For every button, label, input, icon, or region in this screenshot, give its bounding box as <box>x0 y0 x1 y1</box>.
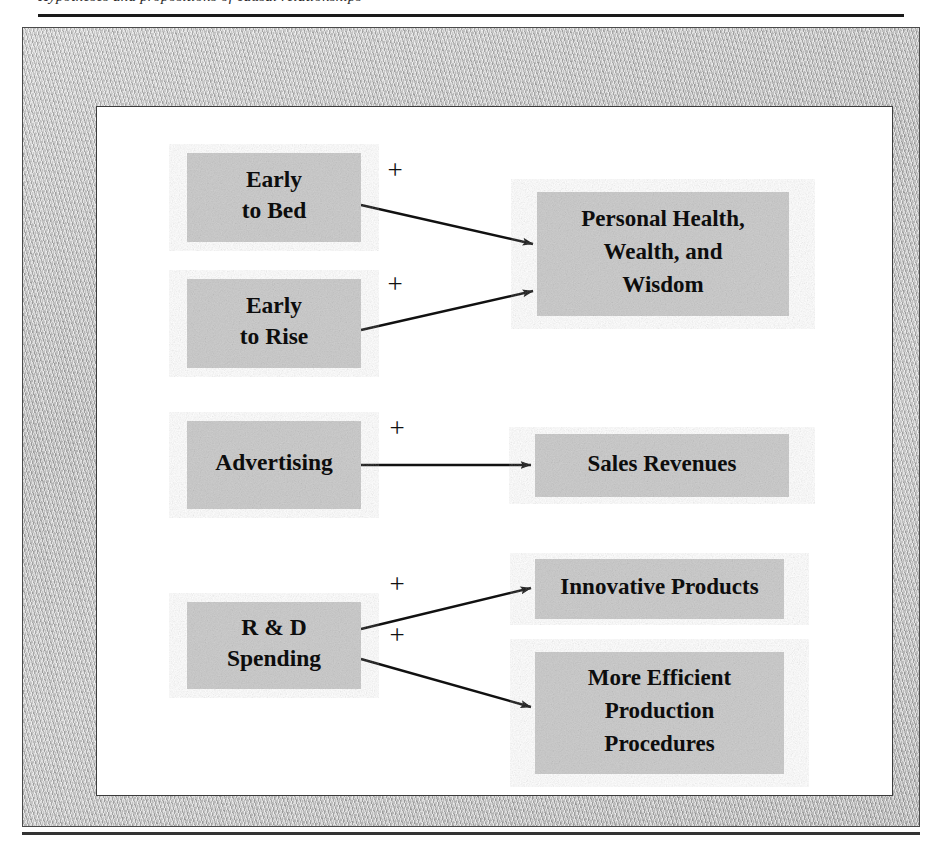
node-label-line: Early <box>246 292 302 318</box>
sign-label-positive: + <box>389 413 404 443</box>
node-sales-revenues: Sales Revenues <box>535 434 789 497</box>
sign-label-positive: + <box>387 269 402 299</box>
link-arrow <box>361 588 531 629</box>
diagram-canvas: Earlyto BedEarlyto RisePersonal Health,W… <box>96 106 893 796</box>
node-label-line: Sales Revenues <box>588 451 737 476</box>
link-rd-to-production <box>361 659 531 707</box>
bottom-horizontal-rule <box>22 832 920 835</box>
node-label-line: Advertising <box>215 449 333 475</box>
node-label-line: Early <box>246 166 302 192</box>
node-label-line: to Bed <box>242 197 307 223</box>
node-label-line: Procedures <box>604 731 714 756</box>
node-early-to-bed: Earlyto Bed <box>187 153 361 242</box>
node-innovative-products: Innovative Products <box>535 559 784 619</box>
node-personal-health-wealth-wisdom: Personal Health,Wealth, andWisdom <box>537 192 789 316</box>
nodes-layer: Earlyto BedEarlyto RisePersonal Health,W… <box>187 153 789 774</box>
link-bed-to-health <box>361 205 533 244</box>
top-horizontal-rule <box>38 14 904 17</box>
node-label-line: R & D <box>241 614 306 640</box>
node-label-line: to Rise <box>240 323 309 349</box>
node-label-line: Production <box>605 698 715 723</box>
running-head-fragment: Hypotheses and propositions of causal re… <box>38 0 598 6</box>
link-arrow <box>361 659 531 707</box>
node-early-to-rise: Earlyto Rise <box>187 279 361 368</box>
sign-label-positive: + <box>389 620 404 650</box>
node-label-line: Innovative Products <box>560 574 758 599</box>
link-arrow <box>361 205 533 244</box>
node-label-line: Spending <box>227 645 321 671</box>
figure-page: Hypotheses and propositions of causal re… <box>0 0 942 854</box>
node-more-efficient-production-procedures: More EfficientProductionProcedures <box>535 652 784 774</box>
node-label-line: Wealth, and <box>604 239 723 264</box>
link-rd-to-innovative <box>361 588 531 629</box>
node-label-line: Personal Health, <box>581 206 745 231</box>
sign-label-positive: + <box>387 155 402 185</box>
node-advertising: Advertising <box>187 421 361 509</box>
sign-label-positive: + <box>389 569 404 599</box>
node-label-line: Wisdom <box>622 272 703 297</box>
signs-layer: +++++ <box>387 155 404 650</box>
node-label-line: More Efficient <box>588 665 732 690</box>
causal-relationship-diagram: Earlyto BedEarlyto RisePersonal Health,W… <box>97 107 894 797</box>
textured-outer-frame: Earlyto BedEarlyto RisePersonal Health,W… <box>22 27 920 827</box>
node-rd-spending: R & DSpending <box>187 602 361 689</box>
